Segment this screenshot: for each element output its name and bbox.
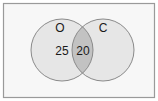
venn-diagram: O C 25 20 [0,0,158,101]
set-o-only-count: 25 [55,44,69,58]
set-c-label: C [99,21,108,35]
intersection-count: 20 [76,44,90,58]
set-o-label: O [55,21,64,35]
